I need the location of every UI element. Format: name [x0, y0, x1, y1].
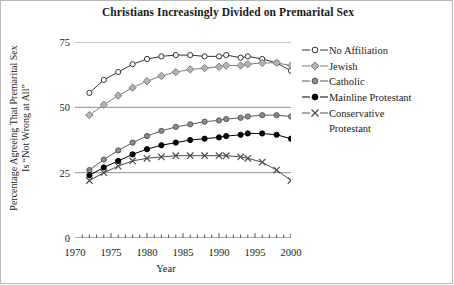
data-point: [187, 66, 194, 73]
x-tick-label: 2000: [281, 247, 302, 258]
legend-item[interactable]: Jewish: [301, 59, 453, 74]
data-point: [287, 62, 291, 69]
data-point: [159, 54, 164, 59]
legend-marker-icon: [301, 43, 329, 57]
data-point: [245, 114, 250, 119]
legend-item[interactable]: No Affiliation: [301, 43, 453, 58]
chart-title: Christians Increasingly Divided on Prema…: [1, 6, 454, 18]
data-point: [245, 131, 250, 136]
data-point: [202, 54, 207, 59]
x-tick-label: 1985: [173, 247, 194, 258]
data-point: [238, 132, 243, 137]
data-point: [116, 148, 121, 153]
data-point: [201, 64, 208, 71]
x-tick-label: 1975: [101, 247, 122, 258]
data-point: [115, 92, 122, 99]
y-axis-label-line1: Percentage Agreeing That Premarital Sex: [8, 45, 19, 210]
data-point: [216, 54, 221, 59]
data-point: [288, 136, 291, 141]
data-point: [173, 52, 178, 57]
y-tick-label: 50: [60, 102, 71, 113]
y-tick-label: 25: [60, 167, 71, 178]
data-point: [101, 77, 106, 82]
data-point: [87, 167, 92, 172]
legend-item[interactable]: Catholic: [301, 74, 453, 89]
data-point: [274, 113, 279, 118]
chart-frame: Christians Increasingly Divided on Prema…: [0, 0, 453, 284]
legend-marker-icon: [301, 59, 329, 73]
data-point: [188, 122, 193, 127]
data-point: [87, 173, 92, 178]
x-axis-label: Year: [41, 263, 291, 274]
data-point: [159, 128, 164, 133]
data-point: [238, 115, 243, 120]
data-point: [288, 114, 291, 119]
legend-label: Mainline Protestant: [329, 90, 412, 105]
data-point: [130, 62, 135, 67]
data-point: [259, 159, 265, 165]
data-point: [245, 54, 250, 59]
legend-label: Catholic: [329, 74, 365, 89]
x-tick-label: 1970: [65, 247, 86, 258]
data-point: [101, 165, 106, 170]
data-point: [260, 113, 265, 118]
data-point: [173, 124, 178, 129]
legend-item[interactable]: Mainline Protestant: [301, 90, 453, 105]
x-tick-label: 1995: [245, 247, 266, 258]
data-point: [130, 140, 135, 145]
chart-legend: No AffiliationJewishCatholicMainline Pro…: [301, 43, 453, 137]
data-point: [87, 90, 92, 95]
x-tick-label: 1980: [137, 247, 158, 258]
data-point: [202, 136, 207, 141]
data-point: [172, 68, 179, 75]
data-point: [86, 111, 93, 118]
data-point: [116, 69, 121, 74]
data-point: [237, 62, 244, 69]
data-point: [224, 133, 229, 138]
legend-item[interactable]: Conservative Protestant: [301, 106, 453, 136]
data-point: [244, 61, 251, 68]
data-point: [260, 131, 265, 136]
data-point: [274, 132, 279, 137]
data-point: [130, 152, 135, 157]
y-tick-label: 0: [65, 233, 70, 244]
data-point: [144, 147, 149, 152]
data-point: [188, 137, 193, 142]
legend-label: Conservative Protestant: [329, 106, 384, 136]
data-point: [159, 143, 164, 148]
y-axis-label-line2: Is “Not Wrong at All”: [20, 23, 32, 233]
y-axis-label: Percentage Agreeing That Premarital Sex …: [8, 23, 32, 233]
data-point: [224, 116, 229, 121]
data-point: [144, 56, 149, 61]
legend-label: Jewish: [329, 59, 358, 74]
plot-area: 0255075: [75, 42, 291, 238]
data-point: [238, 55, 243, 60]
data-point: [223, 62, 230, 69]
legend-marker-icon: [301, 74, 329, 88]
legend-marker-icon: [301, 106, 329, 120]
data-point: [101, 157, 106, 162]
data-point: [202, 119, 207, 124]
data-point: [158, 72, 165, 79]
legend-marker-icon: [301, 90, 329, 104]
data-point: [116, 158, 121, 163]
y-tick-label: 75: [60, 37, 71, 48]
data-point: [143, 78, 150, 85]
data-point: [188, 52, 193, 57]
data-point: [173, 140, 178, 145]
legend-label: No Affiliation: [329, 43, 388, 58]
data-point: [129, 84, 136, 91]
data-point: [273, 59, 280, 66]
data-point: [288, 177, 291, 183]
x-tick-label: 1990: [209, 247, 230, 258]
data-point: [224, 52, 229, 57]
data-point: [215, 63, 222, 70]
data-point: [216, 135, 221, 140]
data-point: [144, 133, 149, 138]
data-point: [216, 118, 221, 123]
chart-canvas: [75, 42, 291, 238]
